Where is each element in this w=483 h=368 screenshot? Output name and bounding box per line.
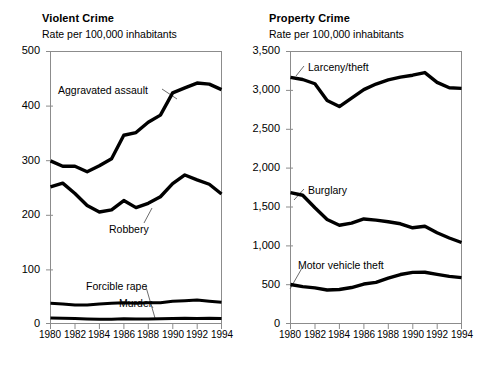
leader-line-larceny-theft <box>296 66 304 76</box>
series-line-forcible-rape <box>51 300 222 305</box>
series-line-motor-vehicle-theft <box>291 272 462 290</box>
axes-frame <box>51 52 222 324</box>
panel-violent-crime: Violent Crime Rate per 100,000 inhabitan… <box>0 0 241 368</box>
plot-area-property-crime <box>240 0 481 368</box>
series-line-aggravated-assault <box>51 83 222 172</box>
series-line-burglary <box>291 193 462 243</box>
series-line-robbery <box>51 175 222 212</box>
panel-property-crime: Property Crime Rate per 100,000 inhabita… <box>240 0 481 368</box>
plot-area-violent-crime <box>0 0 241 368</box>
leader-line-robbery <box>144 208 152 223</box>
series-line-murder <box>51 318 222 319</box>
series-line-larceny-theft <box>291 73 462 107</box>
crime-rates-figure: Violent Crime Rate per 100,000 inhabitan… <box>0 0 483 368</box>
